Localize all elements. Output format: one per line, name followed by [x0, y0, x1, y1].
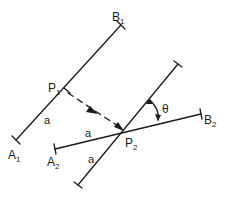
- tick-p1: [64, 88, 70, 93]
- label-theta: θ: [162, 102, 169, 116]
- dashed-arrow-midhead: [86, 106, 98, 114]
- label-length-a-1: a: [44, 114, 51, 126]
- tick-rotated-lower: [74, 182, 82, 188]
- dashed-arrow-head: [114, 122, 124, 131]
- angle-arrowhead: [155, 114, 161, 121]
- label-a2: A2: [47, 155, 60, 171]
- label-b2: B2: [204, 113, 217, 129]
- label-a1: A1: [8, 148, 21, 164]
- label-length-a-2: a: [85, 127, 92, 139]
- segment-a1-b1: [16, 25, 121, 140]
- label-b1: B1: [112, 10, 125, 26]
- label-length-a-3: a: [88, 153, 95, 165]
- diagram-canvas: B1 P1 A1 a a A2 a P2 θ B2: [0, 0, 229, 197]
- label-p1: P1: [48, 81, 61, 97]
- tick-rotated-upper: [174, 61, 182, 67]
- label-p2: P2: [125, 136, 138, 152]
- segment-rotated: [78, 64, 178, 185]
